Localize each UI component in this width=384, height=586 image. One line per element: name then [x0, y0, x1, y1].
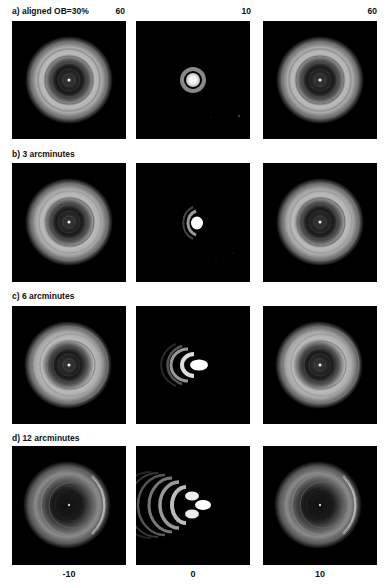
coma-psf-image [136, 306, 250, 424]
psf-panel-a-defocus-minus [12, 21, 126, 139]
donut-psf-image [263, 21, 377, 139]
scale-label-a-right: 60 [347, 6, 377, 16]
psf-panel-a-focus [136, 21, 250, 139]
psf-panel-b-defocus-minus [12, 163, 126, 282]
psf-panel-d-focus [136, 446, 250, 565]
row-label-c: c) 6 arcminutes [12, 291, 74, 301]
donut-psf-image [263, 446, 377, 565]
psf-panel-c-focus [136, 306, 250, 424]
coma-psf-image [136, 163, 250, 282]
row-label-d: d) 12 arcminutes [12, 433, 80, 443]
donut-psf-image [263, 306, 377, 424]
scale-label-a-left: 60 [95, 6, 125, 16]
psf-panel-a-defocus-plus [263, 21, 377, 139]
donut-psf-image [12, 446, 126, 565]
donut-psf-image [12, 306, 126, 424]
donut-psf-image [12, 163, 126, 282]
focus-label-plus: 10 [263, 569, 377, 579]
row-label-a: a) aligned OB=30% [12, 6, 89, 16]
psf-panel-d-defocus-minus [12, 446, 126, 565]
scale-label-a-center: 10 [221, 6, 251, 16]
focus-label-zero: 0 [136, 569, 250, 579]
psf-panel-c-defocus-plus [263, 306, 377, 424]
focus-label-minus: -10 [12, 569, 126, 579]
psf-panel-b-defocus-plus [263, 163, 377, 282]
psf-panel-d-defocus-plus [263, 446, 377, 565]
donut-psf-image [12, 21, 126, 139]
coma-psf-image [136, 446, 250, 565]
airy-psf-image [136, 21, 250, 139]
row-label-b: b) 3 arcminutes [12, 149, 75, 159]
psf-panel-c-defocus-minus [12, 306, 126, 424]
psf-panel-b-focus [136, 163, 250, 282]
donut-psf-image [263, 163, 377, 282]
